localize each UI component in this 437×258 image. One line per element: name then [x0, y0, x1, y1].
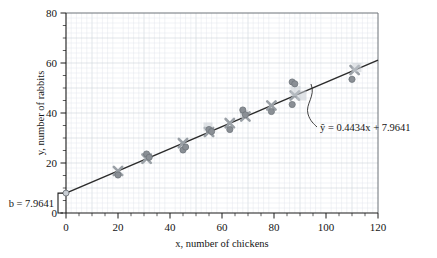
data-point — [242, 112, 248, 118]
grid-lines — [66, 13, 378, 213]
intercept-label: b = 7.9641 — [9, 198, 54, 209]
data-point — [115, 172, 121, 178]
data-point — [289, 101, 295, 107]
data-point — [209, 128, 215, 134]
scatter-plot-figure: 80 60 40 20 0 — [0, 0, 437, 258]
x-tick-label-120: 120 — [370, 221, 387, 233]
y-tick-label-40: 40 — [46, 107, 58, 119]
chart-canvas: 80 60 40 20 0 — [0, 0, 437, 258]
x-tick-label-60: 60 — [217, 221, 229, 233]
regression-equation-label: ŷ = 0.4434x + 7.9641 — [320, 122, 411, 133]
x-tick-label-40: 40 — [165, 221, 177, 233]
data-point — [146, 154, 152, 160]
data-point — [183, 144, 189, 150]
data-point — [349, 76, 355, 82]
data-point — [292, 81, 298, 87]
data-point — [227, 126, 233, 132]
y-tick-label-20: 20 — [46, 157, 58, 169]
x-tick-label-100: 100 — [318, 221, 335, 233]
data-point — [268, 108, 274, 114]
intercept-point — [63, 190, 69, 196]
x-tick-label-20: 20 — [113, 221, 125, 233]
y-tick-label-80: 80 — [46, 7, 58, 19]
x-tick-label-80: 80 — [269, 221, 281, 233]
x-tick-label-0: 0 — [63, 221, 69, 233]
y-axis-title: y, number of rabbits — [35, 71, 46, 155]
y-tick-label-60: 60 — [46, 57, 58, 69]
x-axis-title: x, number of chickens — [175, 238, 268, 249]
